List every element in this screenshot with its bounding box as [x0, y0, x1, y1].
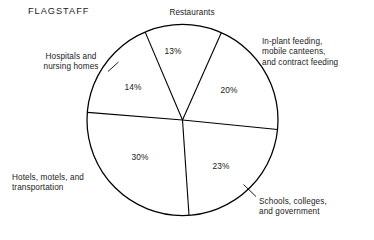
slice-label-hotels-line2: transportation	[12, 183, 116, 193]
slice-value-restaurants: 13%	[157, 46, 189, 56]
slice-value-hotels: 30%	[124, 152, 156, 162]
slice-label-hotels-line1: Hotels, motels, and	[12, 173, 116, 183]
slice-value-inplant: 20%	[213, 85, 245, 95]
slice-value-schools: 23%	[205, 161, 237, 171]
slice-label-restaurants: Restaurants	[150, 8, 234, 18]
slice-label-schools-line2: and government	[259, 207, 374, 217]
slice-label-inplant-line3: and contract feeding	[262, 58, 374, 68]
slice-label-schools-line1: Schools, colleges,	[259, 197, 374, 207]
slice-value-hospitals: 14%	[117, 82, 149, 92]
pie-chart: FLAGSTAFF Restaurants In-plant feeding, …	[0, 0, 374, 240]
slice-label-inplant-line2: mobile canteens,	[262, 47, 374, 57]
chart-title: FLAGSTAFF	[28, 6, 89, 16]
slice-label-hospitals-line1: Hospitals and	[28, 52, 114, 62]
slice-label-hospitals-line2: nursing homes	[28, 62, 114, 72]
slice-label-inplant-line1: In-plant feeding,	[262, 37, 374, 47]
